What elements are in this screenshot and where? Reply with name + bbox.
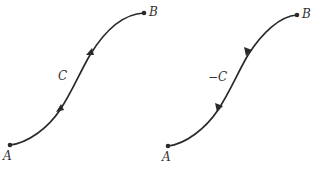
- point-b-left: [142, 11, 147, 16]
- label-minus-c: −C: [208, 70, 227, 84]
- right-panel: A B −C: [161, 7, 311, 164]
- point-b-right: [295, 13, 300, 18]
- label-b-left: B: [148, 5, 158, 19]
- label-b-right: B: [301, 7, 311, 21]
- curve-minus-c: [168, 15, 297, 146]
- label-a-left: A: [2, 149, 12, 163]
- point-a-left: [8, 143, 13, 148]
- label-a-right: A: [161, 150, 171, 164]
- curve-orientation-diagram: A B C A B −C: [0, 0, 313, 172]
- left-panel: A B C: [2, 5, 158, 163]
- point-a-right: [166, 144, 171, 149]
- curve-c: [10, 13, 144, 145]
- label-c: C: [58, 69, 67, 83]
